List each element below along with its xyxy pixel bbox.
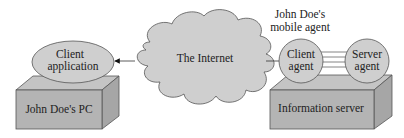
- server-agent-node: Server agent: [345, 39, 389, 83]
- pc-label: John Doe's PC: [25, 103, 93, 115]
- server-agent-line1: Server: [352, 48, 382, 60]
- server-agent-line2: agent: [355, 60, 381, 73]
- internet-cloud: The Internet: [137, 10, 274, 104]
- client-application-line1: Client: [56, 48, 85, 60]
- client-application-line2: application: [47, 60, 98, 73]
- client-application-node: Client application: [32, 41, 114, 83]
- information-server-box: Information server: [270, 75, 392, 129]
- pc-box: John Doe's PC: [16, 76, 119, 129]
- client-agent-line1: Client: [287, 48, 316, 60]
- client-agent-line2: agent: [289, 60, 315, 73]
- mobile-agent-caption-line2: mobile agent: [270, 21, 331, 34]
- client-agent-node: Client agent: [279, 39, 323, 83]
- mobile-agent-caption-line1: John Doe's: [275, 8, 326, 20]
- internet-mobile-agent-diagram: John Doe's PC Client application The Int…: [0, 0, 404, 138]
- internet-label: The Internet: [177, 52, 234, 64]
- information-server-label: Information server: [278, 102, 364, 114]
